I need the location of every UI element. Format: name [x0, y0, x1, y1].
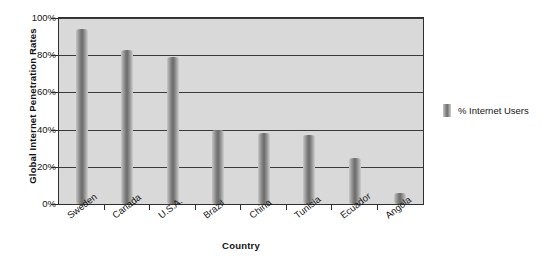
legend-label-internet-users: % Internet Users [458, 105, 529, 116]
x-tick-label-ecuador: Ecuador [338, 190, 373, 220]
x-tick-label-china: China [247, 197, 273, 221]
bar-chart: Global Internet Penetration Rates 0%20%4… [0, 0, 558, 264]
x-tick-label-u-s-a: U.S.A. [156, 195, 184, 221]
x-tick-label-brazil: Brazil [201, 197, 226, 220]
x-axis-tick-labels: SwedenCanadaU.S.A.BrazilChinaTunisiaEcua… [0, 0, 558, 264]
legend-swatch-internet-users [443, 104, 451, 117]
chart-legend: % Internet Users [443, 104, 529, 117]
x-axis-title: Country [58, 240, 424, 251]
x-tick-label-tunisia: Tunisia [292, 193, 323, 220]
x-tick-label-canada: Canada [110, 192, 143, 221]
x-tick-label-angola: Angola [383, 194, 413, 221]
x-tick-label-sweden: Sweden [65, 191, 99, 221]
